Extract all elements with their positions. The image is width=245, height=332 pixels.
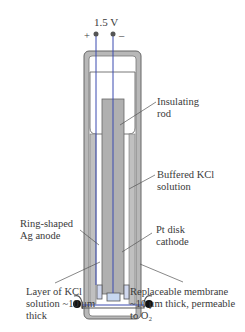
kcl-layer-label: Layer of KCl solution ~10 μm thick: [26, 286, 95, 322]
pt-cathode: [107, 293, 120, 301]
voltage-label: 1.5 V: [94, 16, 118, 28]
membrane-label: Replaceable membrane ~10 μm thick, perme…: [130, 286, 235, 322]
pt-cathode-label: Pt disk cathode: [156, 224, 189, 248]
minus-label: –: [119, 30, 124, 42]
plus-label: +: [84, 30, 90, 42]
plus-terminal: [94, 32, 99, 37]
ring-anode-label: Ring-shaped Ag anode: [20, 218, 73, 242]
buffered-kcl-label: Buffered KCl solution: [157, 169, 214, 193]
inner-wall-left: [90, 134, 96, 304]
insulating-rod-label: Insulating rod: [157, 96, 199, 120]
clark-electrode-diagram: [0, 0, 245, 332]
minus-terminal: [111, 32, 116, 37]
ag-anode-left: [97, 285, 102, 299]
inner-wall-right: [129, 134, 135, 304]
ag-anode-right: [124, 285, 129, 299]
